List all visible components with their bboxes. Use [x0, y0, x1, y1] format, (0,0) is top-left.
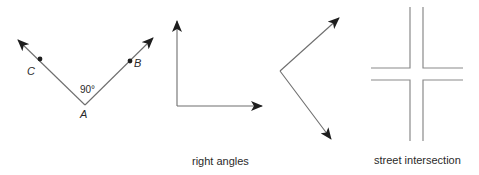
vertex-a-label: A	[79, 108, 87, 120]
right-angles-caption: right angles	[192, 155, 249, 167]
ray-ab	[85, 38, 153, 105]
road-edge-top-right	[423, 7, 463, 68]
angle-measure-label: 90°	[80, 84, 95, 95]
road-edge-bottom-left	[371, 80, 410, 141]
labeled-angle-figure: C B 90° A	[18, 38, 153, 120]
point-b-label: B	[134, 57, 141, 69]
diagram-canvas: C B 90° A right angles street intersecti…	[0, 0, 479, 175]
point-b-dot	[128, 59, 133, 64]
road-edge-bottom-right	[423, 80, 463, 141]
rotated-angle-lower-ray	[280, 71, 331, 139]
rotated-angle-upper-ray	[280, 18, 339, 71]
road-edge-top-left	[371, 7, 410, 68]
right-angle-figure-1	[177, 21, 262, 106]
point-c-dot	[38, 57, 43, 62]
right-angle-figure-2	[280, 18, 339, 139]
street-intersection-caption: street intersection	[374, 154, 461, 166]
street-intersection-figure	[371, 7, 463, 141]
point-c-label: C	[27, 65, 35, 77]
